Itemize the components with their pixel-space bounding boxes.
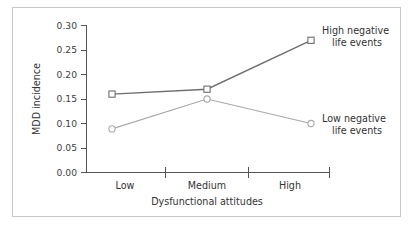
series-line-low-negative <box>112 99 311 129</box>
y-tick-label-025: 0.25 <box>57 44 78 55</box>
legend-low-negative-line1: Low negative <box>322 113 386 124</box>
data-point-low-negative-low <box>109 126 115 132</box>
y-axis-title: MDD incidence <box>31 63 42 135</box>
y-tick-label-015: 0.15 <box>57 93 78 104</box>
x-axis-title: Dysfunctional attitudes <box>151 196 263 207</box>
data-point-high-negative-medium <box>204 86 210 92</box>
y-tick-label-000: 0.00 <box>57 167 78 178</box>
y-tick-label-005: 0.05 <box>57 142 78 153</box>
chart-figure: 0.30 0.25 0.20 0.15 0.10 0.05 0.00 MDD i… <box>0 0 414 229</box>
legend-low-negative-line2: life events <box>332 125 382 136</box>
legend-high-negative-line2: life events <box>332 37 382 48</box>
y-tick-label-020: 0.20 <box>57 69 78 80</box>
series-line-high-negative <box>112 40 311 94</box>
x-category-label-medium: Medium <box>188 180 226 191</box>
data-point-low-negative-high <box>308 120 314 126</box>
data-point-low-negative-medium <box>204 96 210 102</box>
y-tick-label-030: 0.30 <box>57 20 78 31</box>
legend-high-negative-line1: High negative <box>322 25 389 36</box>
line-chart-plot: 0.30 0.25 0.20 0.15 0.10 0.05 0.00 MDD i… <box>0 0 414 229</box>
data-point-high-negative-high <box>308 37 314 43</box>
x-category-label-high: High <box>279 180 301 191</box>
y-tick-label-010: 0.10 <box>57 118 78 129</box>
data-point-high-negative-low <box>109 91 115 97</box>
x-category-label-low: Low <box>116 180 135 191</box>
